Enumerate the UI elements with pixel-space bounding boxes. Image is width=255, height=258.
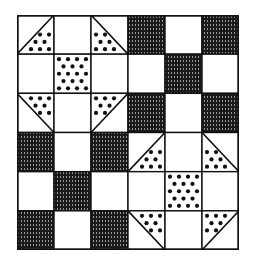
quilt-cell-tri-bl — [91, 15, 128, 54]
quilt-cell-blank — [128, 54, 165, 93]
quilt-cell-blank — [165, 93, 202, 132]
quilt-cell-hatch — [128, 93, 165, 132]
quilt-cell-blank — [202, 172, 239, 211]
quilt-cell-hatch — [91, 133, 128, 172]
quilt-cell-hatch — [202, 93, 239, 132]
quilt-cell-tri-br — [17, 15, 54, 54]
quilt-cell-hatch — [91, 211, 128, 250]
quilt-cell-blank — [17, 54, 54, 93]
quilt-cell-tri-bl — [202, 133, 239, 172]
quilt-cell-hatch — [202, 15, 239, 54]
quilt-cell-blank — [54, 133, 91, 172]
quilt-cell-blank — [17, 172, 54, 211]
quilt-cell-hatch — [17, 211, 54, 250]
quilt-cell-hatch — [54, 172, 91, 211]
quilt-cell-tri-tl — [91, 93, 128, 132]
quilt-cell-blank — [165, 211, 202, 250]
quilt-grid — [17, 15, 239, 250]
quilt-cell-tri-tr — [17, 93, 54, 132]
quilt-cell-dots — [165, 172, 202, 211]
quilt-cell-blank — [54, 93, 91, 132]
quilt-cell-blank — [54, 211, 91, 250]
quilt-cell-blank — [165, 15, 202, 54]
quilt-cell-tri-tl — [202, 211, 239, 250]
quilt-cell-blank — [165, 133, 202, 172]
quilt-cell-blank — [54, 15, 91, 54]
quilt-pattern: Shoo-fly quilt block pattern — [17, 15, 239, 250]
quilt-cell-blank — [91, 172, 128, 211]
quilt-cell-blank — [91, 54, 128, 93]
quilt-cell-blank — [202, 54, 239, 93]
quilt-cell-tri-tr — [128, 211, 165, 250]
quilt-cell-tri-br — [128, 133, 165, 172]
quilt-cell-hatch — [128, 15, 165, 54]
quilt-cell-hatch — [17, 133, 54, 172]
quilt-cell-hatch — [165, 54, 202, 93]
quilt-cell-blank — [128, 172, 165, 211]
quilt-cell-dots — [54, 54, 91, 93]
